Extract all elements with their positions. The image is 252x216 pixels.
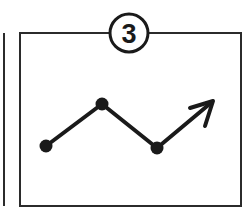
data-point-marker bbox=[151, 142, 164, 155]
data-point-marker bbox=[40, 140, 53, 153]
data-point-marker bbox=[96, 98, 109, 111]
figure-canvas: 3 bbox=[0, 0, 252, 216]
diagram-svg: 3 bbox=[0, 0, 252, 216]
badge-number: 3 bbox=[121, 19, 136, 49]
